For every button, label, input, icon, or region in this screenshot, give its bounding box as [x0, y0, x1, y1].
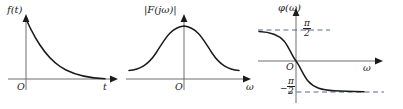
curve-exponential-decay — [26, 19, 105, 79]
x-axis-arrowhead — [375, 58, 383, 65]
y-axis-label-ft: f(t) — [7, 5, 23, 15]
fraction-minus-sign: − — [280, 84, 288, 93]
fraction-denominator: 2 — [303, 28, 311, 38]
x-axis-label-omega: ω — [246, 82, 254, 92]
origin-label-time: O — [17, 82, 25, 92]
x-axis-label-omega: ω — [363, 63, 371, 73]
fourier-transform-figure: f(t) t O |F(jω)| ω O — [0, 0, 403, 109]
fraction-numerator: π — [287, 77, 295, 86]
x-axis-arrowhead — [110, 76, 118, 83]
origin-label-magnitude: O — [175, 82, 183, 92]
x-axis-label-t: t — [103, 82, 107, 92]
y-axis-arrowhead — [181, 14, 188, 22]
tick-label-pi-over-2-negative: − π 2 — [287, 77, 295, 97]
plot-magnitude-spectrum: |F(jω)| ω O — [126, 0, 266, 109]
curve-phase-sigmoid — [259, 32, 364, 92]
fraction-denominator: 2 — [287, 86, 295, 96]
tick-label-pi-over-2-positive: π 2 — [303, 19, 311, 39]
y-axis-label-phase: φ(ω) — [278, 3, 301, 13]
plot-phase-spectrum: φ(ω) ω O π 2 − π 2 — [258, 0, 403, 109]
origin-label-phase: O — [286, 62, 294, 72]
time-domain-canvas — [0, 0, 133, 109]
y-axis-label-magnitude: |F(jω)| — [144, 5, 177, 15]
fraction-numerator: π — [303, 19, 311, 28]
plot-time-domain: f(t) t O — [0, 0, 133, 109]
magnitude-canvas — [126, 0, 266, 109]
